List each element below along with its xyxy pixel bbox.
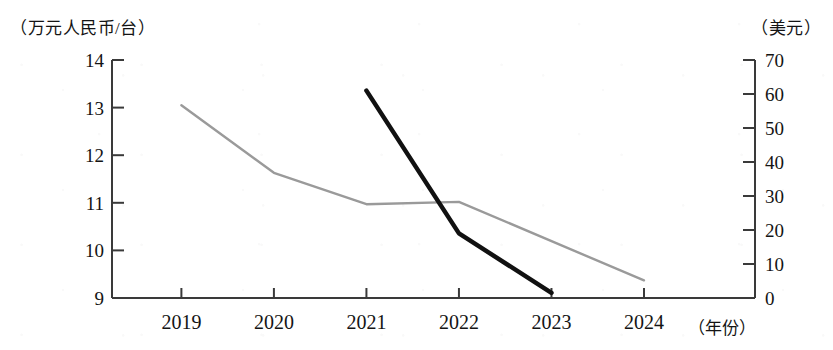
x-axis-ticks bbox=[181, 288, 644, 298]
left-tick-label: 13 bbox=[60, 98, 104, 117]
series-lines bbox=[181, 91, 644, 293]
right-tick-label: 10 bbox=[765, 255, 784, 274]
x-tick-label-2022: 2022 bbox=[439, 312, 479, 332]
right-tick-label: 20 bbox=[765, 221, 784, 240]
right-tick-label: 70 bbox=[765, 51, 784, 70]
x-tick-label-2021: 2021 bbox=[346, 312, 386, 332]
series-line-0 bbox=[181, 105, 644, 280]
right-tick-label: 0 bbox=[765, 289, 775, 308]
left-tick-label: 10 bbox=[60, 241, 104, 260]
left-tick-label: 14 bbox=[60, 51, 104, 70]
right-tick-label: 50 bbox=[765, 119, 784, 138]
right-tick-label: 40 bbox=[765, 153, 784, 172]
left-tick-label: 9 bbox=[60, 289, 104, 308]
plot-area bbox=[0, 0, 833, 350]
x-tick-label-2019: 2019 bbox=[161, 312, 201, 332]
left-tick-label: 12 bbox=[60, 146, 104, 165]
x-tick-label-2023: 2023 bbox=[531, 312, 571, 332]
axis-frame bbox=[112, 60, 755, 298]
right-axis-ticks bbox=[743, 94, 755, 264]
right-tick-label: 60 bbox=[765, 85, 784, 104]
x-tick-label-2024: 2024 bbox=[624, 312, 664, 332]
series-line-1 bbox=[366, 91, 551, 293]
x-axis-title: （年份） bbox=[688, 314, 756, 339]
left-tick-label: 11 bbox=[60, 193, 104, 212]
chart-container: （万元人民币/台） （美元） 14131211109 7060504030201… bbox=[0, 0, 833, 350]
left-axis-ticks bbox=[112, 108, 124, 251]
x-tick-label-2020: 2020 bbox=[254, 312, 294, 332]
right-tick-label: 30 bbox=[765, 187, 784, 206]
